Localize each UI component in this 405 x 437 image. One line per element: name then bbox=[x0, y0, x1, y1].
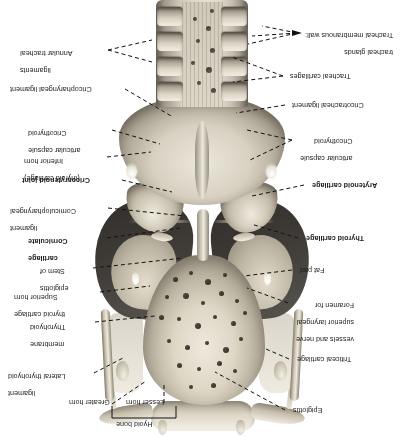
foramen-right bbox=[132, 272, 139, 285]
label-cricotracheal-ligament: Cricotracheal ligament bbox=[292, 101, 364, 109]
tracheal-ring-right-2 bbox=[157, 57, 183, 76]
tracheal-gland bbox=[211, 88, 216, 93]
tracheal-gland bbox=[210, 9, 214, 13]
label-greater-horn: Greater horn bbox=[69, 398, 110, 406]
foramen-left bbox=[264, 272, 271, 285]
label-cricothyroid-articular-capsule-right: articular capsule Cricothyroid bbox=[300, 128, 361, 170]
label-hyoid-bone: Hyoid bone bbox=[116, 420, 152, 428]
label-foramen-superior-laryngeal: vessels and nerve superior laryngeal For… bbox=[296, 292, 362, 351]
label-arytenoid-cartilage: Arytenoid cartilage bbox=[312, 181, 377, 189]
tracheal-gland bbox=[206, 26, 211, 31]
label-tracheal-cartilages: Tracheal cartilages bbox=[290, 72, 351, 80]
label-cricopharyngeal-ligament: Cricopharyngeal ligament bbox=[10, 85, 122, 93]
label-cricoarytenoid-joint: Cricoarytenoid joint bbox=[22, 176, 118, 184]
tracheal-membranous-wall bbox=[181, 2, 223, 107]
tracheal-gland bbox=[193, 17, 197, 21]
tracheal-ring-right-4 bbox=[157, 7, 183, 26]
tracheal-ring-left-3 bbox=[221, 32, 247, 51]
tracheal-ring-left-1 bbox=[221, 82, 247, 101]
tracheal-gland bbox=[210, 48, 215, 53]
label-epiglottis: Epiglottis bbox=[293, 406, 322, 414]
stem-of-epiglottis bbox=[197, 209, 209, 261]
cricothyroid-facet-left bbox=[266, 164, 277, 179]
tracheal-ring-left-2 bbox=[221, 57, 247, 76]
triticeal-cartilage-right bbox=[116, 361, 129, 381]
tracheal-ring-left-4 bbox=[221, 7, 247, 26]
label-thyrohyoid-membrane: membrane Thyrohyoid bbox=[30, 314, 92, 356]
label-tracheal-membranous-wall: tracheal glands Tracheal membranous wall… bbox=[305, 22, 401, 64]
tracheal-gland bbox=[196, 39, 200, 43]
label-annular-tracheal-ligaments: ligaments Annular tracheal bbox=[20, 40, 104, 82]
tracheal-ring-right-3 bbox=[157, 32, 183, 51]
tracheal-gland bbox=[197, 81, 201, 85]
anatomical-figure: tracheal glands Tracheal membranous wall… bbox=[0, 0, 405, 437]
tracheal-ring-right-1 bbox=[157, 82, 183, 101]
tracheal-gland bbox=[206, 67, 212, 73]
cricoid-median-ridge bbox=[195, 121, 209, 199]
label-triticeal-cartilage: Triticeal cartilage bbox=[297, 355, 351, 363]
lesser-horn-right bbox=[158, 420, 167, 435]
label-lesser-horn: Lesser horn bbox=[126, 398, 164, 406]
triticeal-cartilage-left bbox=[274, 361, 287, 381]
tracheal-gland bbox=[191, 61, 195, 65]
label-thyroid-cartilage: Thyroid cartilage bbox=[306, 234, 364, 242]
cricothyroid-facet-right bbox=[126, 164, 137, 179]
lesser-horn-left bbox=[236, 420, 245, 435]
label-fat-pad: Fat pad bbox=[300, 266, 324, 274]
